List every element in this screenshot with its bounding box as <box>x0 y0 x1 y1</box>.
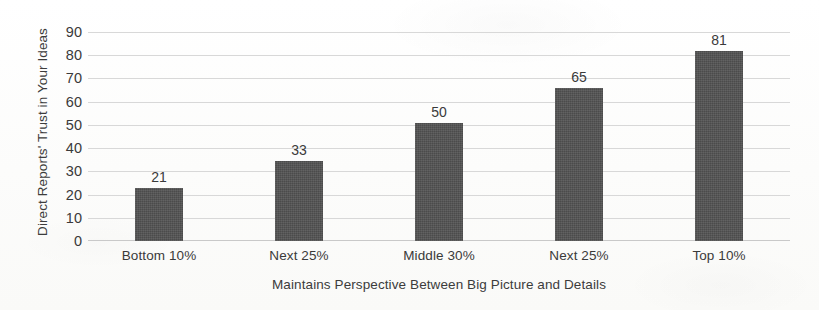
y-tick-label: 10 <box>48 211 82 226</box>
y-tick-label: 90 <box>48 25 82 40</box>
y-tick-label: 0 <box>48 234 82 249</box>
y-tick-label: 40 <box>48 141 82 156</box>
chart-screenshot: Direct Reports' Trust in Your Ideas 90 8… <box>0 0 819 310</box>
x-axis-category-labels: Bottom 10% Next 25% Middle 30% Next 25% … <box>88 248 790 270</box>
gridline-70 <box>88 78 790 79</box>
gridline-60 <box>88 102 790 103</box>
y-tick-label: 30 <box>48 164 82 179</box>
y-tick-label: 80 <box>48 48 82 63</box>
gridline-80 <box>88 55 790 56</box>
y-axis-tick-labels: 90 80 70 60 50 40 30 20 10 0 <box>42 32 82 241</box>
x-tick-label: Next 25% <box>224 248 374 263</box>
x-tick-label: Middle 30% <box>364 248 514 263</box>
bar-value-label: 50 <box>409 105 469 119</box>
x-tick-label: Bottom 10% <box>84 248 234 263</box>
bar-value-label: 65 <box>549 70 609 84</box>
bar-value-label: 33 <box>269 143 329 157</box>
y-tick-label: 20 <box>48 187 82 202</box>
y-tick-label: 50 <box>48 118 82 133</box>
x-axis-title: Maintains Perspective Between Big Pictur… <box>88 277 790 292</box>
plot-area: 21 33 50 65 81 <box>88 32 790 241</box>
y-tick-label: 60 <box>48 94 82 109</box>
bar <box>695 51 743 241</box>
bar <box>135 188 183 241</box>
y-tick-label: 70 <box>48 71 82 86</box>
x-tick-label: Next 25% <box>504 248 654 263</box>
bar <box>415 123 463 241</box>
bar <box>275 161 323 241</box>
bar-value-label: 81 <box>689 33 749 47</box>
x-tick-label: Top 10% <box>644 248 794 263</box>
bar-value-label: 21 <box>129 170 189 184</box>
bar <box>555 88 603 241</box>
gridline-90 <box>88 32 790 33</box>
